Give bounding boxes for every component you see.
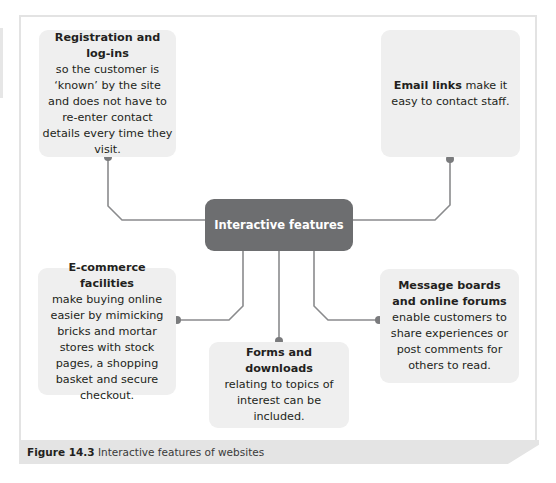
registration-body: so the customer is ‘known’ by the site a…	[43, 63, 173, 156]
forums-body: enable customers to share experiences or…	[391, 311, 508, 372]
box-email: Email links make it easy to contact staf…	[381, 30, 520, 157]
caption-label: Figure 14.3	[27, 446, 95, 458]
box-registration: Registration and log-ins so the customer…	[39, 30, 176, 157]
connector-forums	[314, 251, 379, 320]
ecommerce-body: make buying online easier by mimicking b…	[51, 293, 164, 402]
box-forms: Forms and downloads relating to topics o…	[209, 342, 349, 428]
email-title: Email links	[394, 79, 462, 92]
forums-title: Message boards and online forums	[392, 279, 507, 308]
connector-ecommerce	[177, 251, 243, 320]
central-label: Interactive features	[214, 218, 343, 232]
figure-caption: Figure 14.3 Interactive features of webs…	[19, 440, 539, 464]
box-ecommerce: E-commerce facilities make buying online…	[38, 268, 176, 395]
box-forums: Message boards and online forums enable …	[380, 269, 519, 383]
caption-text: Interactive features of websites	[95, 446, 265, 458]
forms-body: relating to topics of interest can be in…	[225, 378, 334, 423]
registration-title: Registration and log-ins	[55, 31, 160, 60]
connector-registration	[108, 157, 205, 220]
forms-title: Forms and downloads	[245, 346, 313, 375]
ecommerce-title: E-commerce facilities	[68, 261, 145, 290]
connector-email	[353, 159, 450, 220]
central-node: Interactive features	[205, 199, 353, 251]
